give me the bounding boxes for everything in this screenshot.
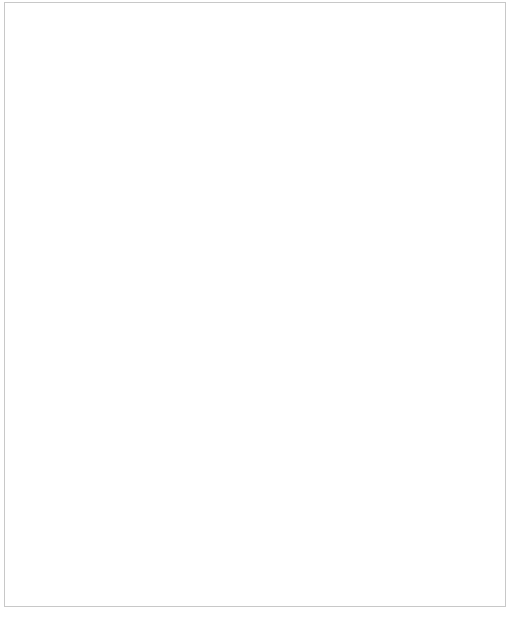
chart-border	[4, 2, 506, 607]
chart-page: 0102030405060708090100110120130140150160…	[0, 0, 510, 619]
